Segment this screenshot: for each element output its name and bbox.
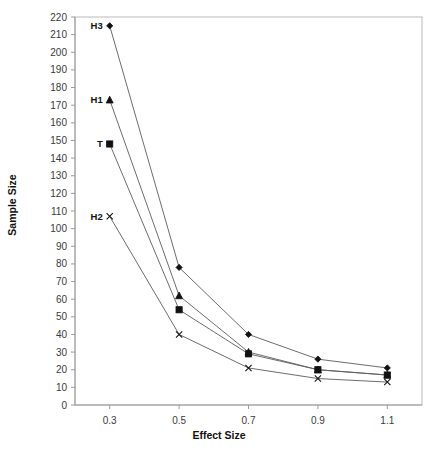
y-tick-label: 140	[50, 153, 67, 164]
y-tick-label: 50	[56, 311, 68, 322]
sample-size-vs-effect-size-line-chart: 0102030405060708090100110120130140150160…	[0, 0, 438, 467]
data-point-t-1	[176, 307, 182, 313]
x-tick-label: 1.1	[380, 415, 394, 426]
data-point-t-4	[384, 372, 390, 378]
y-tick-label: 200	[50, 47, 67, 58]
y-tick-label: 110	[51, 206, 67, 217]
y-tick-label: 210	[50, 29, 67, 40]
series-label-t: T	[97, 138, 103, 149]
series-label-h2: H2	[91, 211, 103, 222]
y-tick-label: 150	[50, 135, 67, 146]
y-tick-label: 120	[50, 188, 67, 199]
x-tick-label: 0.3	[103, 415, 117, 426]
y-axis-title: Sample Size	[6, 174, 18, 235]
y-tick-label: 160	[50, 117, 67, 128]
y-tick-label: 130	[50, 170, 67, 181]
y-tick-label: 20	[56, 364, 68, 375]
y-tick-label: 70	[56, 276, 68, 287]
y-tick-label: 180	[50, 82, 67, 93]
data-point-t-3	[315, 367, 321, 373]
series-label-h1: H1	[91, 94, 104, 105]
y-tick-label: 30	[56, 347, 68, 358]
y-tick-label: 0	[61, 400, 67, 411]
data-point-t-0	[107, 141, 113, 147]
x-tick-label: 0.5	[172, 415, 186, 426]
y-tick-label: 170	[50, 100, 67, 111]
y-tick-label: 220	[50, 12, 67, 23]
y-tick-label: 40	[56, 329, 68, 340]
chart-container: 0102030405060708090100110120130140150160…	[0, 0, 438, 467]
data-point-t-2	[245, 351, 251, 357]
y-tick-label: 90	[56, 241, 68, 252]
y-tick-label: 190	[50, 64, 67, 75]
x-axis-title: Effect Size	[192, 429, 245, 441]
series-label-h3: H3	[91, 20, 103, 31]
y-tick-label: 60	[56, 294, 68, 305]
x-tick-label: 0.9	[311, 415, 325, 426]
x-tick-label: 0.7	[242, 415, 256, 426]
y-tick-label: 10	[56, 382, 68, 393]
y-tick-label: 100	[50, 223, 67, 234]
y-tick-label: 80	[56, 258, 68, 269]
